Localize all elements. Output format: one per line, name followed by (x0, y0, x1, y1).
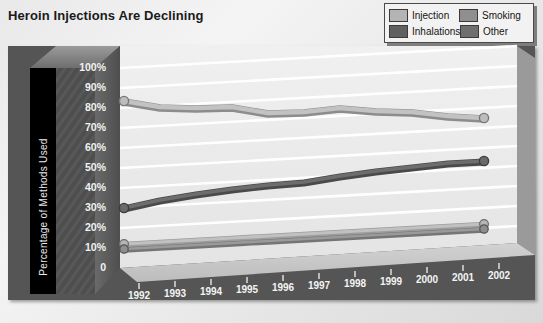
x-axis-tick-labels: 1992 1993 1994 1995 1996 1997 1998 1999 … (0, 0, 543, 323)
x-tick: 2002 (476, 270, 522, 281)
chart-screenshot: Heroin Injections Are Declining Injectio… (0, 0, 543, 323)
